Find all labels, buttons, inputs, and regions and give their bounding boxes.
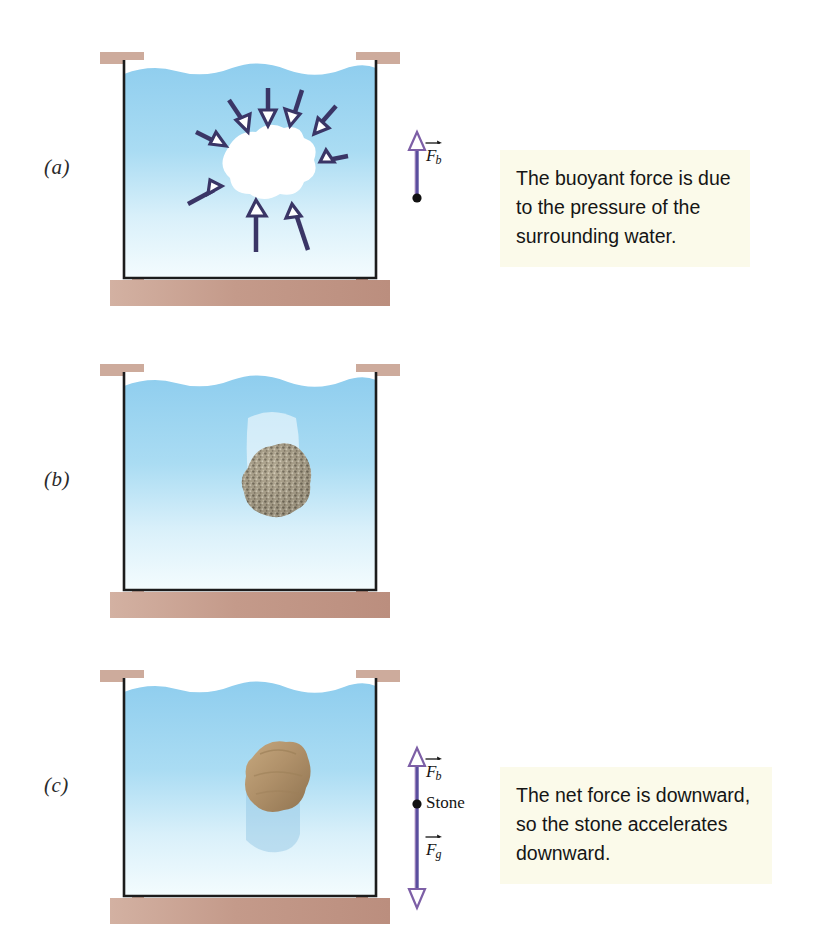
beaker-b-svg <box>96 356 404 624</box>
panel-letter-a: (a) <box>44 155 70 180</box>
panel-a: (a) <box>0 30 837 320</box>
panel-letter-b: (b) <box>44 467 70 492</box>
vector-label-fb-a: Fb <box>426 146 441 168</box>
vector-a-svg <box>404 128 444 208</box>
beaker-c-svg <box>96 662 404 926</box>
beaker-a-svg <box>96 44 404 312</box>
caption-a: The buoyant force is due to the pressure… <box>500 150 750 267</box>
beaker-b <box>96 356 404 624</box>
panel-letter-c: (c) <box>44 773 69 798</box>
panel-b: (b) <box>0 342 837 632</box>
beaker-c <box>96 662 404 926</box>
beaker-a <box>96 44 404 312</box>
panel-c: (c) <box>0 648 837 926</box>
